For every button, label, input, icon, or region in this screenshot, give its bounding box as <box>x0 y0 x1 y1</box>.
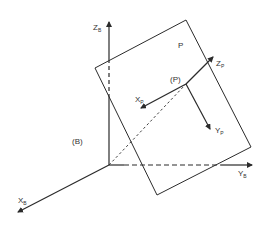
point-frame-label: (P) <box>170 75 181 84</box>
plane-label: P <box>178 41 183 50</box>
x-p-axis <box>141 84 186 108</box>
y-b-label: YB <box>238 169 247 179</box>
plane-p <box>95 20 251 195</box>
x-p-label: XP <box>135 95 144 105</box>
z-p-label: ZP <box>216 59 225 69</box>
x-b-axis <box>18 165 109 212</box>
position-vector <box>109 84 186 165</box>
coordinate-frame-diagram: ZB YB XB (B) P (P) ZP XP YP <box>0 0 268 228</box>
y-p-axis <box>186 84 210 129</box>
y-p-label: YP <box>215 126 224 136</box>
z-b-label: ZB <box>93 23 102 33</box>
x-b-label: XB <box>18 196 27 206</box>
z-p-axis <box>186 57 213 84</box>
base-frame-label: (B) <box>72 137 83 146</box>
